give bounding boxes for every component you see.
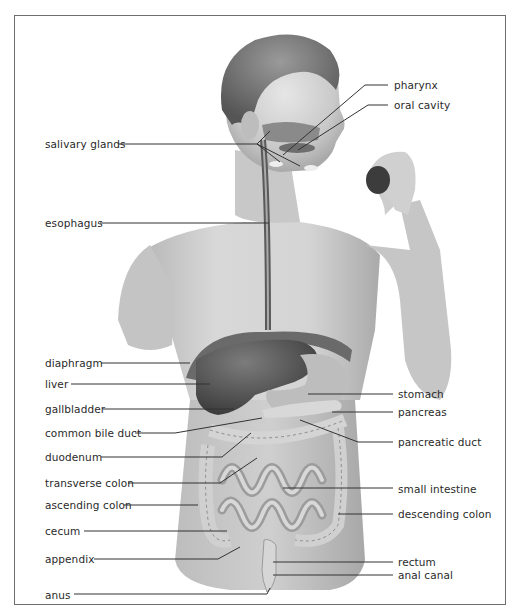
label-small-intestine: small intestine [398, 483, 477, 495]
label-transverse-colon: transverse colon [45, 477, 134, 489]
label-common-bile-duct: common bile duct [45, 427, 141, 439]
human-body-illustration [0, 0, 521, 614]
label-esophagus: esophagus [45, 217, 103, 229]
label-stomach: stomach [398, 388, 444, 400]
label-ascending-colon: ascending colon [45, 499, 132, 511]
label-salivary-glands: salivary glands [45, 138, 126, 150]
label-anus: anus [45, 589, 71, 601]
label-rectum: rectum [398, 556, 436, 568]
label-anal-canal: anal canal [398, 569, 453, 581]
label-liver: liver [45, 378, 68, 390]
label-oral-cavity: oral cavity [394, 99, 450, 111]
label-appendix: appendix [45, 553, 94, 565]
label-diaphragm: diaphragm [45, 357, 103, 369]
label-duodenum: duodenum [45, 451, 102, 463]
label-gallbladder: gallbladder [45, 403, 105, 415]
label-pharynx: pharynx [394, 79, 438, 91]
label-cecum: cecum [45, 525, 80, 537]
label-descending-colon: descending colon [398, 508, 492, 520]
label-pancreas: pancreas [398, 406, 447, 418]
label-pancreatic-duct: pancreatic duct [398, 436, 481, 448]
